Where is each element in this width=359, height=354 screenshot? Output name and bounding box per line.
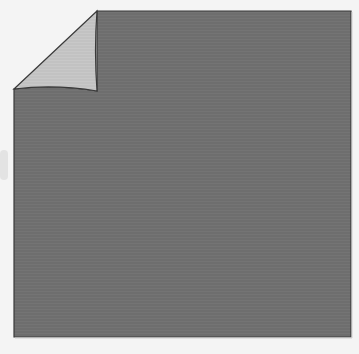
curled-corner [14, 11, 97, 91]
page-curl-figure [0, 0, 359, 354]
curled-sheet-graphic [0, 0, 359, 354]
